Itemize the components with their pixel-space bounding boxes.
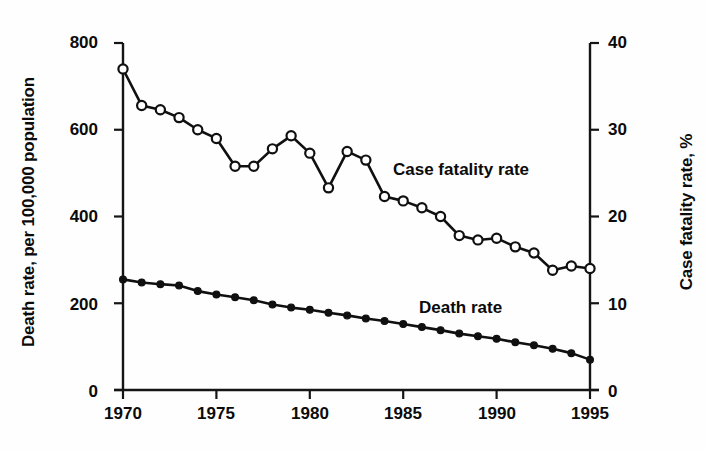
data-point-death-rate	[306, 306, 313, 313]
data-point-case-fatality-rate	[436, 212, 445, 221]
data-point-case-fatality-rate	[548, 266, 557, 275]
data-point-death-rate	[344, 312, 351, 319]
series-line-case-fatality-rate	[123, 69, 590, 270]
data-point-death-rate	[269, 301, 276, 308]
data-point-case-fatality-rate	[249, 162, 258, 171]
data-point-death-rate	[194, 288, 201, 295]
data-point-death-rate	[456, 330, 463, 337]
data-point-case-fatality-rate	[455, 231, 464, 240]
data-point-case-fatality-rate	[324, 183, 333, 192]
data-point-death-rate	[512, 339, 519, 346]
data-point-death-rate	[400, 321, 407, 328]
data-point-death-rate	[288, 304, 295, 311]
data-point-death-rate	[549, 345, 556, 352]
data-point-case-fatality-rate	[492, 234, 501, 243]
data-point-case-fatality-rate	[529, 248, 538, 257]
data-point-case-fatality-rate	[212, 134, 221, 143]
data-point-case-fatality-rate	[230, 162, 239, 171]
chart-figure: Death rate, per 100,000 population Case …	[0, 0, 706, 451]
data-point-death-rate	[568, 350, 575, 357]
data-point-death-rate	[120, 276, 127, 283]
data-point-case-fatality-rate	[567, 261, 576, 270]
data-point-case-fatality-rate	[417, 203, 426, 212]
data-point-case-fatality-rate	[174, 113, 183, 122]
data-point-death-rate	[250, 297, 257, 304]
data-point-case-fatality-rate	[305, 149, 314, 158]
data-point-death-rate	[437, 327, 444, 334]
data-point-death-rate	[138, 279, 145, 286]
data-point-death-rate	[493, 335, 500, 342]
data-point-death-rate	[325, 309, 332, 316]
axes-group	[114, 43, 599, 399]
data-point-death-rate	[176, 282, 183, 289]
data-point-case-fatality-rate	[399, 196, 408, 205]
data-point-death-rate	[475, 333, 482, 340]
data-point-case-fatality-rate	[511, 242, 520, 251]
data-point-case-fatality-rate	[137, 101, 146, 110]
data-point-death-rate	[232, 294, 239, 301]
data-point-case-fatality-rate	[118, 64, 127, 73]
data-point-death-rate	[531, 342, 538, 349]
data-point-death-rate	[418, 324, 425, 331]
data-point-death-rate	[157, 281, 164, 288]
series-line-death-rate	[123, 279, 590, 359]
plot-canvas	[0, 0, 706, 451]
data-point-case-fatality-rate	[193, 125, 202, 134]
data-point-case-fatality-rate	[585, 264, 594, 273]
data-point-case-fatality-rate	[287, 131, 296, 140]
data-point-case-fatality-rate	[473, 235, 482, 244]
data-point-death-rate	[381, 318, 388, 325]
data-point-death-rate	[362, 315, 369, 322]
data-point-case-fatality-rate	[361, 156, 370, 165]
data-point-case-fatality-rate	[343, 147, 352, 156]
data-point-death-rate	[587, 356, 594, 363]
data-point-death-rate	[213, 291, 220, 298]
series-group	[118, 64, 594, 363]
data-point-case-fatality-rate	[156, 105, 165, 114]
data-point-case-fatality-rate	[268, 144, 277, 153]
data-point-case-fatality-rate	[380, 192, 389, 201]
